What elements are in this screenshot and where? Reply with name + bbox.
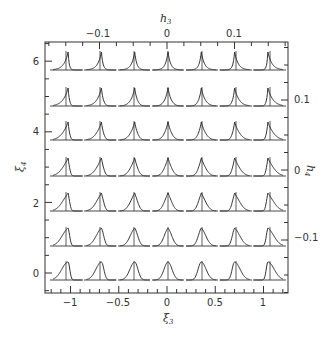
- distribution-panel: [186, 51, 218, 70]
- x-tick-label: −0.5: [106, 297, 130, 308]
- distribution-panel: [186, 121, 218, 140]
- distribution-panel: [186, 157, 218, 176]
- distribution-panel: [50, 121, 83, 140]
- distribution-panel: [220, 261, 252, 280]
- panel-grid-chart: −1 −0.5 0 0.5 1 ξ3 6 4 2 0 ξ4 −0.1 0 0.1…: [0, 0, 330, 338]
- distribution-panel: [118, 192, 150, 211]
- y-tick-label: 2: [33, 198, 39, 209]
- distribution-panel: [152, 227, 184, 246]
- distribution-panel: [152, 51, 184, 70]
- distribution-panel: [84, 87, 116, 106]
- distribution-panel: [253, 227, 286, 246]
- x-tick-label: 0.5: [207, 297, 223, 308]
- y-tick-label: 6: [33, 56, 39, 67]
- distribution-panel: [186, 87, 218, 106]
- distribution-panel: [253, 51, 286, 70]
- distribution-panel: [186, 261, 218, 280]
- top-tick-label: −0.1: [86, 28, 110, 39]
- distribution-panel: [186, 227, 218, 246]
- distribution-panel: [152, 121, 184, 140]
- distribution-panel: [253, 192, 286, 211]
- distribution-panel: [50, 261, 83, 280]
- top-axis-title: h3: [160, 12, 172, 26]
- distribution-panel: [220, 51, 252, 70]
- x-tick-label: −1: [63, 297, 78, 308]
- distribution-panel: [253, 87, 286, 106]
- distribution-panel: [152, 157, 184, 176]
- distribution-panel: [50, 51, 83, 70]
- distribution-panel: [220, 157, 252, 176]
- distribution-panel: [152, 87, 184, 106]
- distribution-panel: [118, 87, 150, 106]
- distribution-panel: [50, 87, 83, 106]
- distribution-panel: [84, 227, 116, 246]
- plot-frame: [45, 42, 288, 293]
- distribution-panel: [50, 157, 83, 176]
- distribution-panel: [253, 157, 286, 176]
- distribution-panel: [220, 121, 252, 140]
- distribution-panel: [220, 227, 252, 246]
- y-tick-label: 4: [33, 126, 39, 137]
- distribution-panel: [84, 157, 116, 176]
- distribution-panel: [220, 192, 252, 211]
- distribution-panel: [118, 121, 150, 140]
- x-tick-label: 0: [164, 297, 170, 308]
- top-tick-label: 0: [164, 28, 170, 39]
- small-multiple-panels: [50, 51, 286, 280]
- distribution-panel: [84, 51, 116, 70]
- right-axis-title: h4: [303, 165, 317, 177]
- axis-ticks: [45, 42, 288, 293]
- right-tick-label: 0: [294, 165, 300, 176]
- distribution-panel: [118, 227, 150, 246]
- distribution-panel: [253, 121, 286, 140]
- x-tick-label: 1: [260, 297, 266, 308]
- distribution-panel: [50, 192, 83, 211]
- distribution-panel: [118, 157, 150, 176]
- distribution-panel: [118, 51, 150, 70]
- distribution-panel: [220, 87, 252, 106]
- y-tick-label: 0: [33, 268, 39, 279]
- distribution-panel: [84, 261, 116, 280]
- distribution-panel: [253, 261, 286, 280]
- distribution-panel: [84, 192, 116, 211]
- right-tick-label: −0.1: [294, 232, 318, 243]
- distribution-panel: [152, 261, 184, 280]
- x-axis-title: ξ3: [163, 312, 174, 326]
- distribution-panel: [84, 121, 116, 140]
- distribution-panel: [186, 192, 218, 211]
- top-tick-label: 0.1: [226, 28, 242, 39]
- y-axis-title: ξ4: [14, 161, 28, 172]
- right-tick-label: 0.1: [294, 94, 310, 105]
- distribution-panel: [118, 261, 150, 280]
- distribution-panel: [50, 227, 83, 246]
- distribution-panel: [152, 192, 184, 211]
